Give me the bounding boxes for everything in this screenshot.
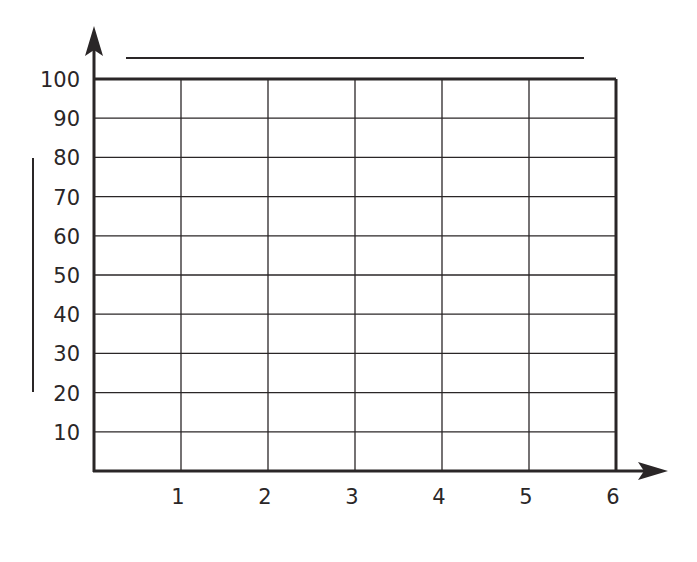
y-tick-label: 80 xyxy=(53,146,80,170)
y-tick-label: 40 xyxy=(53,303,80,327)
x-tick-labels: 123456 xyxy=(171,485,619,509)
y-tick-label: 70 xyxy=(53,186,80,210)
x-tick-label: 1 xyxy=(171,485,184,509)
y-tick-label: 100 xyxy=(40,68,80,92)
x-tick-label: 4 xyxy=(432,485,445,509)
y-tick-label: 20 xyxy=(53,382,80,406)
y-tick-label: 30 xyxy=(53,342,80,366)
x-tick-label: 2 xyxy=(258,485,271,509)
y-tick-label: 10 xyxy=(53,421,80,445)
x-tick-label: 6 xyxy=(606,485,619,509)
blank-graph-chart: 102030405060708090100 123456 xyxy=(0,0,697,562)
y-tick-label: 60 xyxy=(53,225,80,249)
y-tick-label: 90 xyxy=(53,107,80,131)
y-tick-label: 50 xyxy=(53,264,80,288)
y-tick-labels: 102030405060708090100 xyxy=(40,68,80,445)
x-tick-label: 5 xyxy=(519,485,532,509)
x-tick-label: 3 xyxy=(345,485,358,509)
grid xyxy=(94,79,616,471)
